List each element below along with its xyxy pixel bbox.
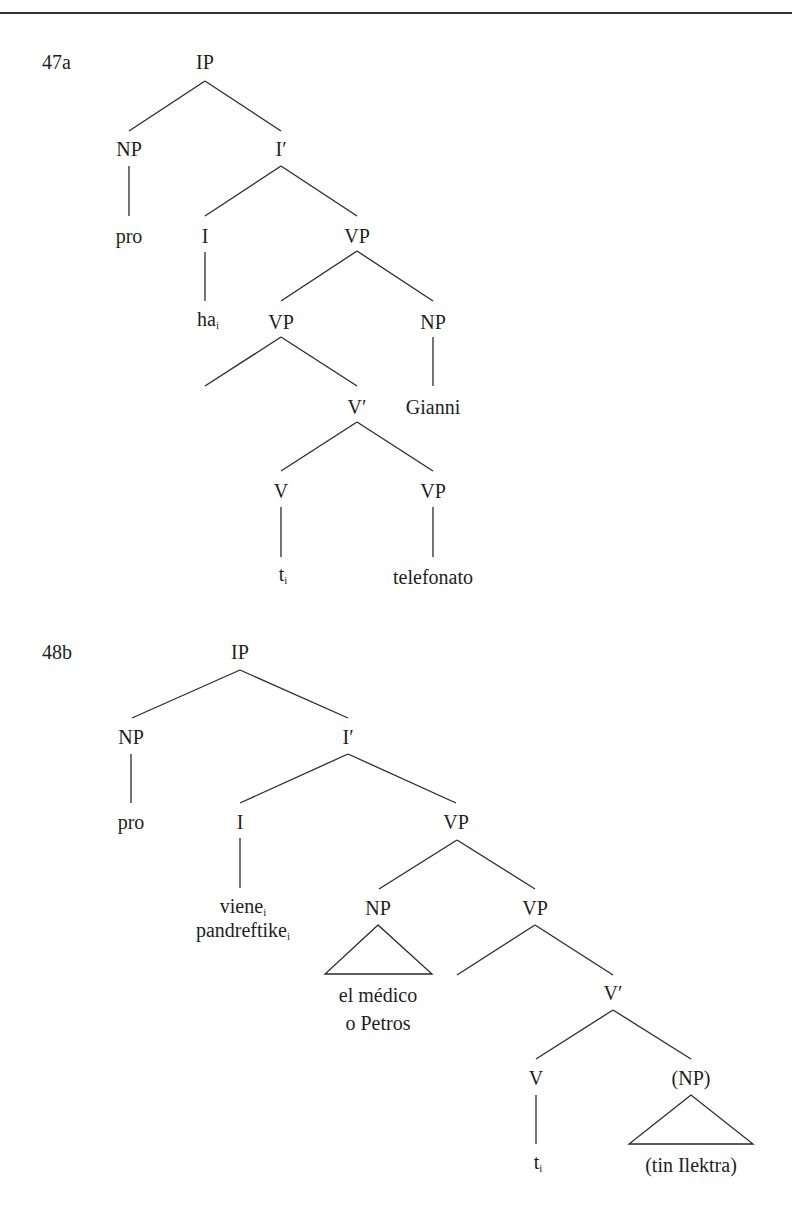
node-ip: IP xyxy=(231,642,249,662)
node-np-specifier: NP xyxy=(365,898,391,918)
node-vp-complement: VP xyxy=(420,481,446,501)
leaf-telefonato: telefonato xyxy=(393,567,473,587)
leaf-pandreftike: pandreftikei xyxy=(196,920,290,946)
node-i-bar: I′ xyxy=(275,139,286,159)
node-vp: VP xyxy=(344,226,370,246)
leaf-tin-ilektra: (tin Ilektra) xyxy=(645,1155,737,1175)
node-i: I xyxy=(237,812,244,832)
leaf-ha: hai xyxy=(197,309,219,335)
node-i: I xyxy=(202,226,209,246)
example-number: 47a xyxy=(42,52,71,72)
node-vp: VP xyxy=(443,812,469,832)
node-np-optional: (NP) xyxy=(672,1068,711,1088)
leaf-o-petros: o Petros xyxy=(346,1013,411,1033)
leaf-pro: pro xyxy=(118,812,145,832)
node-v-bar: V′ xyxy=(348,397,367,417)
leaf-pro: pro xyxy=(116,226,143,246)
node-ip: IP xyxy=(196,52,214,72)
node-v-bar: V′ xyxy=(604,983,623,1003)
leaf-el-medico: el médico xyxy=(339,985,417,1005)
leaf-gianni: Gianni xyxy=(406,397,460,417)
node-i-bar: I′ xyxy=(342,727,353,747)
node-vp-inner: VP xyxy=(268,312,294,332)
node-v: V xyxy=(529,1068,543,1088)
node-np-subject: NP xyxy=(118,727,144,747)
node-np-object: NP xyxy=(420,312,446,332)
node-np-subject: NP xyxy=(116,139,142,159)
leaf-trace: ti xyxy=(279,564,288,590)
node-vp-inner: VP xyxy=(522,898,548,918)
leaf-trace: ti xyxy=(534,1152,543,1178)
example-number: 48b xyxy=(42,642,72,662)
node-v: V xyxy=(274,481,288,501)
